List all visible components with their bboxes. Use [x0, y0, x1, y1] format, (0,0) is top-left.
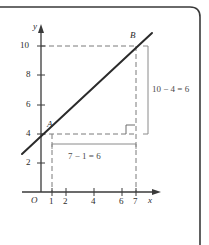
x-tick-label-2: 2 — [63, 197, 68, 206]
x-tick-label-4: 4 — [91, 197, 96, 206]
y-tick-label-10: 10 — [20, 41, 29, 50]
point-label-b: B — [130, 31, 136, 40]
y-axis-label: y — [33, 22, 37, 31]
y-tick-label-6: 6 — [26, 100, 31, 109]
x-tick-label-1: 1 — [49, 197, 54, 206]
y-axis-arrow — [38, 24, 44, 33]
x-axis-arrow — [152, 189, 161, 195]
x-axis-label: x — [148, 196, 152, 205]
run-annotation: 7 − 1 = 6 — [68, 152, 101, 161]
x-tick-label-7: 7 — [133, 197, 138, 206]
y-tick-label-8: 8 — [26, 70, 31, 79]
origin-label: O — [31, 196, 38, 205]
x-tick-label-6: 6 — [119, 197, 124, 206]
right-angle-marker — [126, 125, 135, 134]
rise-annotation: 10 − 4 = 6 — [152, 85, 189, 94]
y-tick-label-4: 4 — [26, 129, 31, 138]
y-tick-label-2: 2 — [26, 158, 31, 167]
point-label-a: A — [47, 120, 53, 129]
figure-canvas: 10 8 6 4 2 1 2 4 6 7 O x y A B 10 − 4 = … — [0, 0, 209, 245]
coordinate-diagram — [0, 0, 209, 245]
